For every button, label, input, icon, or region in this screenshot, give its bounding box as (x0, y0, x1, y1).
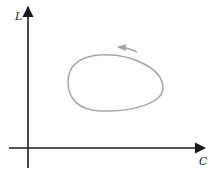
x-axis-label: C (199, 155, 208, 168)
direction-arrow-icon (118, 47, 137, 52)
limit-cycle-loop (68, 55, 163, 111)
phase-diagram: L C (0, 0, 219, 174)
y-axis-label: L (14, 10, 22, 23)
